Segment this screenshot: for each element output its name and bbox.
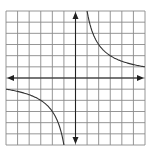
curve-branch-quadrant-3	[6, 89, 64, 145]
axes	[7, 12, 144, 144]
coordinate-graph	[0, 0, 152, 149]
arrow-down-icon	[73, 137, 79, 144]
arrow-left-icon	[7, 75, 14, 81]
arrow-right-icon	[137, 75, 144, 81]
arrow-up-icon	[73, 12, 79, 19]
curve-branch-quadrant-1	[87, 11, 145, 67]
